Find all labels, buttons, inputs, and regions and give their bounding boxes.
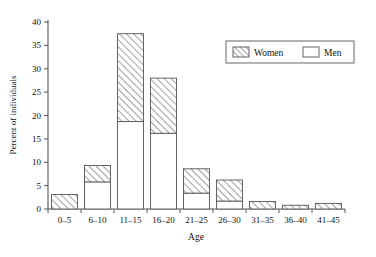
y-axis-title: Percent of individuals bbox=[8, 75, 18, 154]
x-tick-label: 26–30 bbox=[218, 215, 241, 225]
y-tick-label: 10 bbox=[32, 157, 42, 167]
bar-group bbox=[52, 195, 78, 209]
x-tick-label: 21–25 bbox=[185, 215, 208, 225]
bar-segment-women bbox=[85, 166, 111, 182]
legend-label-women: Women bbox=[254, 48, 284, 58]
x-tick-label: 16–20 bbox=[152, 215, 175, 225]
y-tick-label: 35 bbox=[32, 40, 42, 50]
bar-group bbox=[283, 205, 309, 209]
x-tick-label: 31–35 bbox=[251, 215, 274, 225]
bar-segment-women bbox=[118, 34, 144, 122]
bar-segment-men bbox=[118, 122, 144, 209]
bar-segment-women bbox=[283, 205, 309, 209]
bar-segment-women bbox=[184, 169, 210, 193]
bar-group bbox=[217, 180, 243, 209]
y-tick-label: 0 bbox=[37, 204, 42, 214]
bar-group bbox=[118, 34, 144, 209]
y-tick-label: 5 bbox=[37, 181, 42, 191]
bar-segment-women bbox=[250, 202, 276, 209]
legend-label-men: Men bbox=[324, 48, 342, 58]
y-tick-label: 40 bbox=[32, 17, 42, 27]
y-tick-label: 15 bbox=[32, 134, 42, 144]
x-tick-label: 36–40 bbox=[284, 215, 307, 225]
bar-segment-men bbox=[151, 133, 177, 209]
bar-segment-men bbox=[217, 201, 243, 209]
legend-swatch-women bbox=[233, 47, 249, 57]
legend-swatch-men bbox=[303, 47, 319, 57]
y-tick-label: 30 bbox=[32, 64, 42, 74]
bar-group bbox=[316, 203, 342, 209]
bar-chart-svg: Percent of individuals 0 5 10 15 20 25 3… bbox=[0, 0, 376, 257]
bar-segment-women bbox=[151, 78, 177, 133]
bar-group bbox=[184, 169, 210, 209]
x-tick-label: 6–10 bbox=[89, 215, 108, 225]
y-tick-label: 25 bbox=[32, 87, 42, 97]
x-tick-label: 11–15 bbox=[119, 215, 142, 225]
chart-legend: Women Men bbox=[226, 41, 354, 63]
bar-segment-men bbox=[85, 182, 111, 209]
bar-segment-women bbox=[217, 180, 243, 201]
bar-group bbox=[250, 202, 276, 209]
bar-segment-women bbox=[316, 203, 342, 209]
x-tick-label: 41–45 bbox=[317, 215, 340, 225]
x-axis-title: Age bbox=[188, 232, 204, 242]
x-tick-label: 0–5 bbox=[58, 215, 72, 225]
y-tick-label: 20 bbox=[32, 111, 42, 121]
bar-segment-men bbox=[184, 193, 210, 209]
bar-group bbox=[151, 78, 177, 209]
bar-segment-women bbox=[52, 195, 78, 209]
chart-container: Percent of individuals 0 5 10 15 20 25 3… bbox=[0, 0, 376, 257]
bar-group bbox=[85, 166, 111, 209]
